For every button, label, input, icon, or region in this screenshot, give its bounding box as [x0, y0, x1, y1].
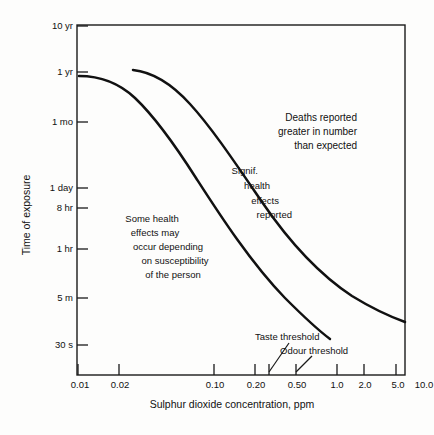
odour-threshold-leader	[296, 356, 312, 372]
x-axis-tick-labels: 0.01 0.02 0.10 0.20 0.50 1.0 2.0 5.0 10.…	[71, 379, 434, 390]
annotation-deaths-line-2: greater in number	[278, 126, 358, 137]
x-tick-label-0-10: 0.10	[206, 379, 225, 390]
x-tick-label-0-02: 0.02	[111, 379, 130, 390]
odour-threshold-label: Odour threshold	[280, 345, 348, 356]
chart-container: 10 yr 1 yr 1 mo 1 day 8 hr 1 hr 5 m 30 s…	[0, 0, 434, 435]
y-tick-label-5m: 5 m	[57, 292, 73, 303]
y-axis-tick-labels: 10 yr 1 yr 1 mo 1 day 8 hr 1 hr 5 m 30 s	[50, 20, 73, 350]
annotation-some-line-1: Some health	[125, 213, 178, 224]
x-tick-label-2-0: 2.0	[358, 379, 371, 390]
x-tick-label-0-20: 0.20	[247, 379, 266, 390]
annotation-significant-effects: Signif. health effects reported	[232, 165, 292, 220]
x-axis-ticks	[78, 364, 396, 375]
y-tick-label-10yr: 10 yr	[52, 20, 73, 31]
y-axis-ticks	[77, 26, 88, 345]
so2-exposure-chart: 10 yr 1 yr 1 mo 1 day 8 hr 1 hr 5 m 30 s…	[0, 0, 434, 435]
annotation-deaths-reported: Deaths reported greater in number than e…	[278, 112, 358, 151]
annotation-signif-line-3: effects	[251, 195, 279, 206]
x-tick-label-1-0: 1.0	[330, 379, 343, 390]
x-tick-label-0-01: 0.01	[71, 379, 90, 390]
annotation-signif-line-4: reported	[257, 209, 292, 220]
x-tick-label-0-50: 0.50	[288, 379, 307, 390]
y-tick-label-1hr: 1 hr	[57, 243, 73, 254]
y-tick-label-1day: 1 day	[50, 182, 73, 193]
annotation-some-line-4: on susceptibility	[141, 255, 208, 266]
annotation-some-line-5: of the person	[145, 269, 200, 280]
y-tick-label-8hr: 8 hr	[57, 202, 73, 213]
taste-threshold-label: Taste threshold	[255, 331, 319, 342]
annotation-signif-line-2: health	[244, 180, 270, 191]
annotation-some-line-3: occur depending	[133, 241, 203, 252]
y-axis-title: Time of exposure	[20, 174, 32, 255]
x-axis-title: Sulphur dioxide concentration, ppm	[150, 398, 315, 410]
y-tick-label-30s: 30 s	[55, 339, 73, 350]
plot-frame	[77, 25, 405, 375]
x-tick-label-5-0: 5.0	[391, 379, 404, 390]
y-tick-label-1mo: 1 mo	[52, 116, 73, 127]
x-tick-label-10-0: 10.0	[415, 379, 434, 390]
y-tick-label-1yr: 1 yr	[57, 66, 73, 77]
annotation-some-line-2: effects may	[131, 227, 180, 238]
annotation-deaths-line-3: than expected	[294, 140, 357, 151]
annotation-signif-line-1: Signif.	[232, 165, 258, 176]
annotation-some-health-effects: Some health effects may occur depending …	[125, 213, 208, 280]
annotation-deaths-line-1: Deaths reported	[285, 112, 357, 123]
